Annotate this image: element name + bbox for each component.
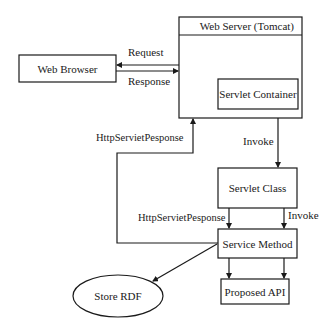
architecture-diagram: Web Server (Tomcat) Servlet Container We… [0,0,334,333]
http-response-label-top: HttpServietPesponse [96,133,184,144]
response-label: Response [128,76,170,87]
invoke-label-mid: Invoke [288,210,319,221]
service-method-label: Service Method [218,229,297,258]
servlet-container-label: Servlet Container [218,79,298,109]
request-label: Request [128,47,163,58]
web-server-label: Web Server (Tomcat) [179,17,302,35]
http-response-label-mid: HttpServietPesponse [138,213,226,224]
web-browser-label: Web Browser [19,55,116,82]
store-rdf-label: Store RDF [73,275,163,317]
invoke-label-top: Invoke [243,136,274,147]
proposed-api-label: Proposed API [221,279,289,304]
servlet-class-label: Servlet Class [218,168,297,208]
